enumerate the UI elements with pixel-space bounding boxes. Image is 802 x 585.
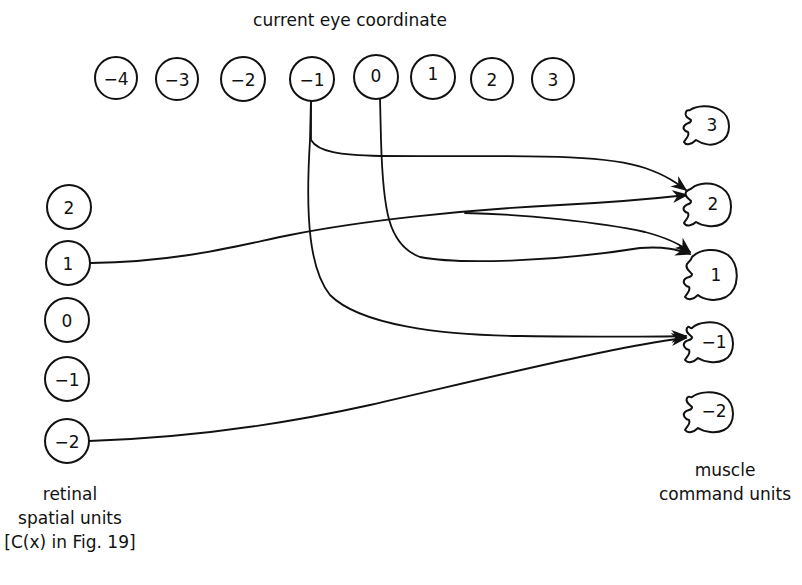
- retinal-unit: −1: [45, 357, 89, 401]
- muscle-unit: 3: [684, 106, 729, 144]
- eye-unit: 2: [471, 58, 513, 100]
- muscle-unit-label: −1: [701, 332, 726, 352]
- muscle-unit: −2: [684, 392, 733, 432]
- eye-unit: 3: [532, 58, 574, 100]
- eye-coordinate-units: −4 −3 −2 −1 0 1 2 3: [95, 55, 574, 101]
- muscle-unit: 2: [684, 183, 731, 226]
- muscle-command-units: 3 2 1 −1 −2: [684, 106, 737, 432]
- retinal-unit-label: −2: [54, 432, 79, 452]
- eye-unit-label: 3: [548, 70, 559, 90]
- eye-unit-label: −2: [230, 70, 255, 90]
- retinal-spatial-units: 2 1 0 −1 −2: [45, 185, 91, 463]
- retinal-unit: −2: [45, 419, 89, 463]
- retinal-unit: 0: [45, 298, 89, 342]
- eye-unit: −4: [95, 57, 137, 99]
- edge-retinal-1-to-muscle-2: [91, 195, 687, 263]
- muscle-unit-label: 3: [707, 115, 718, 135]
- edge-retinal-m2-to-muscle-m1: [89, 338, 686, 441]
- eye-unit: −3: [156, 58, 198, 100]
- eye-unit-label: −4: [103, 69, 128, 89]
- eye-unit-label: 1: [428, 64, 439, 84]
- muscle-unit-label: −2: [701, 401, 726, 421]
- retinal-label-line: [C(x) in Fig. 19]: [0, 530, 140, 554]
- retinal-label-line: spatial units: [0, 506, 140, 530]
- eye-unit: −1: [290, 57, 334, 101]
- retinal-unit-label: 2: [64, 198, 75, 218]
- eye-unit-label: −3: [164, 70, 189, 90]
- eye-unit: 0: [354, 55, 398, 99]
- retinal-unit: 2: [47, 185, 91, 229]
- eye-unit: 1: [411, 55, 455, 99]
- retinal-unit-label: 1: [63, 254, 74, 274]
- muscle-label-line: command units: [650, 482, 800, 506]
- muscle-unit: −1: [684, 322, 733, 362]
- muscle-unit-label: 1: [711, 265, 722, 285]
- muscle-label-line: muscle: [650, 458, 800, 482]
- eye-coordinate-title: current eye coordinate: [200, 8, 500, 32]
- muscle-units-label: muscle command units: [650, 458, 800, 506]
- retinal-unit: 1: [46, 241, 90, 285]
- muscle-unit: 1: [684, 250, 737, 300]
- retinal-unit-label: 0: [62, 311, 73, 331]
- edge-eye-0-to-muscle-1: [380, 98, 690, 261]
- eye-unit: −2: [221, 57, 265, 101]
- retinal-label-line: retinal: [0, 482, 140, 506]
- edge-retinal-1-to-muscle-1: [465, 213, 690, 252]
- retinal-unit-label: −1: [54, 370, 79, 390]
- eye-unit-label: −1: [299, 70, 324, 90]
- eye-unit-label: 0: [371, 66, 382, 86]
- retinal-units-label: retinal spatial units [C(x) in Fig. 19]: [0, 482, 140, 554]
- edge-eye-m1-to-muscle-m1: [308, 98, 686, 337]
- edge-eye-m1-to-muscle-2: [311, 98, 686, 190]
- eye-unit-label: 2: [487, 70, 498, 90]
- muscle-unit-label: 2: [708, 194, 719, 214]
- connections: [89, 98, 690, 441]
